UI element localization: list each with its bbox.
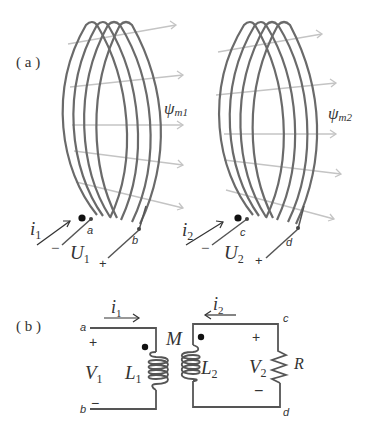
flux-lines-2 (216, 30, 341, 221)
current-i1-label-b: i1 (111, 297, 122, 319)
coil-1: a b i1 − U1 + ψm1 (30, 21, 188, 271)
terminal-b-node (137, 227, 141, 231)
voltage-u2-symbol: U2 (224, 242, 244, 266)
polarity-plus-v1: + (89, 334, 97, 350)
current-i1-symbol: i1 (30, 218, 41, 242)
mutual-inductance-label: M (165, 328, 183, 349)
polarity-dot-l2 (198, 334, 204, 340)
voltage-v1-label: V1 (85, 362, 103, 386)
resistor-r-label: R (293, 355, 304, 372)
coil-2: c d i2 − U2 + ψm2 (182, 22, 353, 268)
terminal-b-label: b (132, 234, 138, 246)
flux-psi-m1-label: ψm1 (164, 99, 188, 118)
current-i2-symbol: i2 (182, 219, 193, 243)
inductor-l2-label: L2 (200, 357, 218, 381)
resistor-r (272, 348, 286, 383)
polarity-minus-1: − (51, 240, 59, 256)
terminal-b-label-b: b (80, 403, 86, 415)
voltage-u1-symbol: U1 (70, 242, 90, 266)
polarity-plus-1: + (99, 256, 107, 271)
lead-d (266, 229, 298, 258)
inductor-l1-label: L1 (124, 362, 142, 386)
part-a-label: ( a ) (16, 54, 40, 71)
primary-circuit: a b + − i1 V1 L1 (80, 297, 168, 415)
terminal-c-label: c (240, 226, 246, 238)
polarity-dot-l1 (142, 344, 148, 350)
part-a: ( a ) (16, 21, 353, 271)
current-i2-label-b: i2 (213, 294, 224, 316)
secondary-circuit: c d + − i2 L2 V2 R (182, 294, 304, 418)
terminal-c-label-b: c (283, 312, 289, 324)
terminal-a-label: a (87, 224, 93, 236)
terminal-d-label-b: d (283, 406, 290, 418)
lead-b-up (139, 206, 146, 230)
polarity-dot-2 (234, 214, 241, 221)
terminal-a-label-b: a (80, 321, 86, 333)
terminal-d-node (296, 226, 300, 230)
polarity-minus-v1: − (91, 395, 99, 411)
polarity-plus-2: + (255, 253, 263, 268)
polarity-dot-1 (78, 214, 85, 221)
primary-bottom-wire (90, 390, 156, 409)
polarity-minus-2: − (201, 240, 209, 256)
terminal-a-node (89, 217, 93, 221)
coupled-coils-figure: ( a ) (0, 0, 368, 432)
flux-psi-m2-label: ψm2 (328, 104, 353, 123)
polarity-plus-v2: + (252, 329, 260, 345)
terminal-d-label: d (286, 236, 293, 248)
inductor-l2 (182, 345, 200, 381)
inductor-l1 (149, 352, 169, 390)
coil-1-turns (63, 22, 161, 224)
part-b: ( b ) a b + − i1 V1 L1 M (16, 294, 304, 418)
coil-2-turns (219, 22, 317, 224)
part-b-label: ( b ) (16, 318, 41, 335)
polarity-minus-v2: − (254, 382, 263, 399)
secondary-top-wire (193, 324, 278, 348)
secondary-bottom-wire (193, 381, 280, 407)
voltage-v2-label: V2 (249, 356, 267, 380)
terminal-c-node (245, 217, 249, 221)
